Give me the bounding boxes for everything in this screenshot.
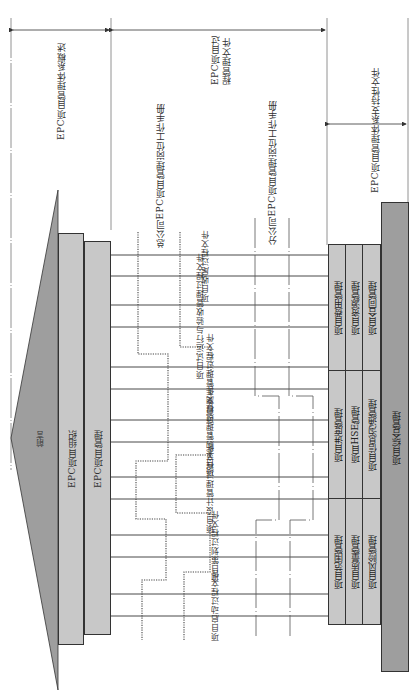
schedule-management-label: 项目进度管理 [331, 408, 344, 462]
info-communication-management-box: 项目信息沟通管理 [362, 370, 381, 499]
support-docs-section-label: EPC项目管理体系支持性文件 [370, 68, 380, 193]
process-docs-section-label: EPC项目过 程管理文件 [210, 35, 234, 85]
process-docs-label-line2: 程管理文件 [221, 35, 231, 85]
resource-management-box: 项目资源管理 [345, 244, 363, 371]
integration-management-box: 项目综合管理 [381, 202, 409, 672]
overview-section-label: EPC项目管理体系概述 [56, 40, 66, 140]
integration-management-label: 项目综合管理 [389, 411, 402, 465]
process-doc-commissioning: 项目试运行与验收管理过程文件 [130, 305, 270, 327]
process-doc-initiation-label: 项目启动过程文件 [210, 569, 221, 641]
quality-management-label: 项目质量管理 [348, 535, 361, 589]
resource-management-label: 项目资源管理 [348, 281, 361, 335]
process-doc-procurement: 项目采购管理过程文件 [150, 420, 270, 442]
quality-management-box: 项目质量管理 [345, 498, 363, 625]
cost-management-label: 项目费用管理 [331, 281, 344, 335]
cost-management-box: 项目费用管理 [328, 244, 346, 371]
branch-office-manual-label: 分公司EPC项目管理岗位工作手册 [267, 105, 277, 245]
epc-management-label: EPC项目管理 [93, 429, 103, 488]
preface-label: 前言 [36, 430, 46, 447]
epc-management-system-diagram: EPC项目管理体系概述 EPC项目过 程管理文件 EPC项目管理体系支持性文件 … [0, 0, 420, 694]
epc-organization-block: EPC项目组织 [58, 233, 84, 645]
info-communication-management-label: 项目信息沟通管理 [365, 399, 378, 471]
epc-management-block: EPC项目管理 [84, 241, 111, 635]
process-doc-planning: 项目策划过程文件 [160, 535, 270, 557]
hse-management-box: 项目HSE管理 [345, 370, 363, 499]
risk-management-label: 项目风险管理 [365, 535, 378, 589]
scope-management-box: 项目范围管理 [328, 498, 346, 625]
contract-management-box: 项目合同管理 [362, 244, 381, 371]
process-doc-design: 项目设计管理过程文件 [150, 477, 270, 499]
contract-management-label: 项目合同管理 [365, 281, 378, 335]
schedule-management-box: 项目进度管理 [328, 370, 346, 499]
risk-management-box: 项目风险管理 [362, 498, 381, 625]
head-office-manual-label: 总公司EPC项目管理岗位工作手册 [155, 108, 165, 248]
scope-management-label: 项目范围管理 [331, 535, 344, 589]
process-doc-commissioning-label: 项目试运行与验收管理过程文件 [195, 253, 206, 379]
process-docs-label-line1: EPC项目过 [210, 35, 220, 85]
hse-management-label: 项目HSE管理 [348, 406, 361, 463]
epc-organization-label: EPC项目组织 [67, 429, 77, 488]
process-doc-initiation: 项目启动过程文件 [160, 594, 270, 616]
